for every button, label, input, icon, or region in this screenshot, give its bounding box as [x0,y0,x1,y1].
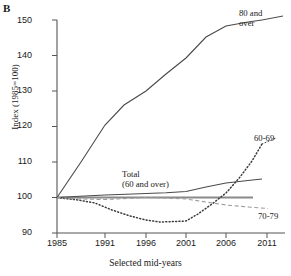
annotation-80-and-over: 80 and over [239,9,262,28]
annotation-80-and-over-line2: over [239,19,262,29]
annotation-70-79: 70-79 [258,212,278,222]
annotation-60-69: 60-69 [254,134,274,144]
annotation-total-line2: (60 and over) [122,180,169,190]
series-line-70-79 [57,198,268,209]
leader-line-80-and-over [262,16,283,20]
figure-panel-b: B Index (1985=100) Selected mid-years 15… [0,0,291,276]
chart-canvas [0,0,291,276]
annotation-total: Total (60 and over) [122,170,169,189]
